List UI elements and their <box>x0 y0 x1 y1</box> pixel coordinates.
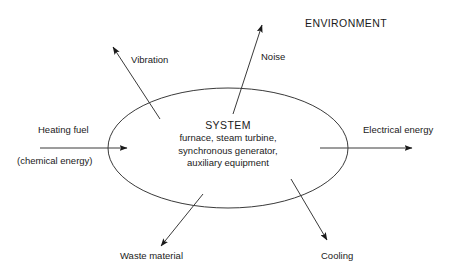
flow-label-cooling: Cooling <box>321 250 353 262</box>
system-title: SYSTEM <box>138 118 318 132</box>
system-boundary-diagram: ENVIRONMENT SYSTEM furnace, steam turbin… <box>0 0 456 278</box>
flow-line-noise <box>233 25 262 114</box>
flow-line-waste-material <box>161 194 203 246</box>
environment-label: ENVIRONMENT <box>305 17 387 29</box>
flow-label-electrical-energy: Electrical energy <box>363 124 433 136</box>
flow-line-cooling <box>291 179 327 240</box>
flow-label-vibration: Vibration <box>131 54 168 66</box>
flow-label-noise: Noise <box>261 51 285 63</box>
system-description-block: SYSTEM furnace, steam turbine, synchrono… <box>138 118 318 170</box>
flow-sublabel-chemical-energy: (chemical energy) <box>17 155 93 167</box>
flow-label-waste-material: Waste material <box>120 250 183 262</box>
system-component-line-2: synchronous generator, <box>138 145 318 158</box>
system-component-line-1: furnace, steam turbine, <box>138 132 318 145</box>
system-component-line-3: auxiliary equipment <box>138 157 318 170</box>
flow-label-heating-fuel: Heating fuel <box>38 124 89 136</box>
